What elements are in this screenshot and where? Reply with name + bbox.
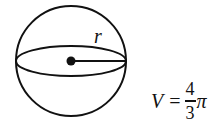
- fraction-denominator: 3: [186, 102, 195, 122]
- radius-label: r: [94, 25, 102, 47]
- formula-lhs: V: [151, 90, 163, 113]
- center-point: [67, 57, 76, 66]
- formula-fraction: 4 3: [185, 80, 196, 121]
- formula-tail: π: [197, 90, 207, 113]
- fraction-numerator: 4: [185, 80, 196, 100]
- formula-equals: =: [169, 90, 180, 113]
- volume-formula: V = 4 3 π: [151, 76, 207, 126]
